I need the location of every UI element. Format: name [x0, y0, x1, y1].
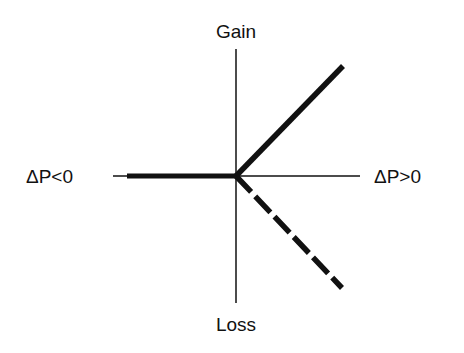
positive-delta-p-label: ΔP>0	[374, 166, 421, 187]
loss-label: Loss	[216, 314, 256, 335]
loss-line	[236, 176, 342, 288]
gain-line	[236, 66, 343, 176]
diagram: Gain Loss ΔP<0 ΔP>0	[0, 0, 464, 353]
negative-delta-p-label: ΔP<0	[26, 166, 73, 187]
gain-label: Gain	[216, 21, 256, 42]
diagram-canvas: Gain Loss ΔP<0 ΔP>0	[0, 0, 464, 353]
